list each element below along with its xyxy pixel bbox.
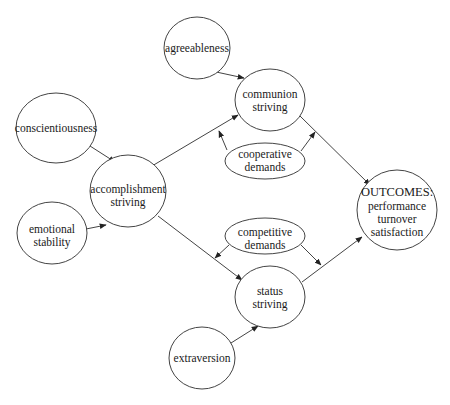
node-label: demands <box>245 161 286 173</box>
node-label: emotional <box>29 223 75 235</box>
node-outcomes: OUTCOMES: performance turnover satisfact… <box>357 170 437 250</box>
node-extraversion: extraversion <box>169 327 235 389</box>
node-label: striving <box>110 196 145 209</box>
node-label: satisfaction <box>371 226 424 238</box>
node-emotional-stability: emotional stability <box>17 202 87 264</box>
node-communion-striving: communion striving <box>235 69 305 131</box>
node-label: accomplishment <box>90 183 166 196</box>
node-conscientiousness: conscientiousness <box>15 93 98 163</box>
edge-emotional-stability-to-accomplishment <box>86 225 106 229</box>
node-label: turnover <box>378 213 417 225</box>
edge-competitive-to-status-outcomes <box>301 245 321 265</box>
edge-communion-to-outcomes <box>300 116 370 185</box>
edge-competitive-to-accomplishment-status <box>215 245 229 258</box>
node-label: striving <box>252 298 287 311</box>
node-label: competitive <box>238 226 292 239</box>
path-diagram: agreeableness communion striving conscie… <box>0 0 450 405</box>
edge-cooperative-to-accomplishment-communion <box>219 131 227 150</box>
edge-accomplishment-to-status <box>158 216 242 280</box>
edge-status-to-outcomes <box>302 237 362 282</box>
node-label: stability <box>33 236 70 249</box>
node-label: agreeableness <box>165 42 229 55</box>
edge-extraversion-to-status <box>231 326 258 343</box>
node-accomplishment-striving: accomplishment striving <box>90 155 166 227</box>
node-label: communion <box>243 88 298 100</box>
node-label: OUTCOMES: <box>361 185 433 199</box>
node-label: status <box>257 285 284 297</box>
node-label: striving <box>252 101 287 114</box>
node-competitive-demands: competitive demands <box>225 218 305 254</box>
node-label: performance <box>368 200 426 213</box>
node-label: extraversion <box>174 352 231 364</box>
node-label: conscientiousness <box>15 122 98 134</box>
node-cooperative-demands: cooperative demands <box>225 143 305 179</box>
node-status-striving: status striving <box>235 266 305 328</box>
node-agreeableness: agreeableness <box>164 17 230 79</box>
node-label: demands <box>245 239 286 251</box>
node-label: cooperative <box>238 148 292 161</box>
edge-cooperative-to-communion-outcomes <box>301 132 315 151</box>
